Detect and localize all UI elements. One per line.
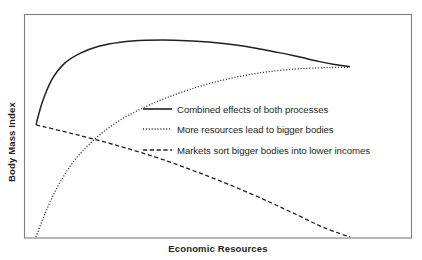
legend-label-more-resources: More resources lead to bigger bodies bbox=[177, 124, 334, 135]
y-axis-title: Body Mass Index bbox=[6, 102, 17, 182]
legend-label-combined: Combined effects of both processes bbox=[177, 104, 328, 115]
chart-canvas: Body Mass Index Economic Resources Combi… bbox=[0, 0, 422, 260]
legend-label-markets-sort: Markets sort bigger bodies into lower in… bbox=[177, 145, 370, 156]
y-axis-label: Body Mass Index bbox=[6, 102, 17, 182]
chart-figure: Body Mass Index Economic Resources Combi… bbox=[0, 0, 422, 260]
x-axis-label: Economic Resources bbox=[168, 243, 267, 254]
legend-item-markets-sort: Markets sort bigger bodies into lower in… bbox=[143, 145, 370, 156]
